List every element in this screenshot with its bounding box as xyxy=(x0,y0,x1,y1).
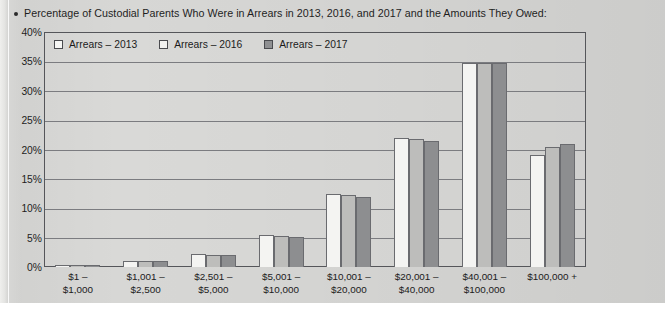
dark-gray-square-swatch xyxy=(264,40,273,49)
y-axis-tick-label: 10% xyxy=(2,203,42,214)
bar-group xyxy=(315,32,383,267)
x-axis-labels: $1 –$1,000$1,001 –$2,500$2,501 –$5,000$5… xyxy=(44,271,586,305)
bar xyxy=(492,63,507,267)
y-axis-labels: 40%35%30%25%20%15%10%5%0% xyxy=(0,32,42,267)
chart-title-row: Percentage of Custodial Parents Who Were… xyxy=(14,5,547,21)
bar xyxy=(560,144,575,267)
bar xyxy=(545,147,560,267)
bar-group xyxy=(383,32,451,267)
chart-legend: Arrears – 2013Arrears – 2016Arrears – 20… xyxy=(44,32,586,56)
x-axis-tick-label: $10,001 –$20,000 xyxy=(315,271,383,296)
x-axis-tick-label: $1,001 –$2,500 xyxy=(112,271,180,296)
x-axis-tick-label: $1 –$1,000 xyxy=(44,271,112,296)
bar xyxy=(191,254,206,267)
bar xyxy=(394,138,409,267)
bar xyxy=(289,237,304,267)
legend-item[interactable]: Arrears – 2013 xyxy=(54,39,137,50)
bar xyxy=(462,63,477,267)
bar xyxy=(341,195,356,267)
x-axis-tick-label: $2,501 –$5,000 xyxy=(180,271,248,296)
bar-group xyxy=(112,32,180,267)
y-axis-tick-label: 0% xyxy=(2,262,42,273)
bar-group xyxy=(451,32,519,267)
legend-item[interactable]: Arrears – 2017 xyxy=(264,39,347,50)
y-axis-tick-label: 30% xyxy=(2,85,42,96)
bar-group xyxy=(44,32,112,267)
bar xyxy=(123,261,138,267)
x-axis-tick-label: $5,001 –$10,000 xyxy=(247,271,315,296)
bar-chart: 40%35%30%25%20%15%10%5%0% Arrears – 2013… xyxy=(0,24,665,305)
legend-item-label: Arrears – 2013 xyxy=(69,39,137,50)
bar xyxy=(221,255,236,267)
bar xyxy=(356,197,371,268)
bullet-icon xyxy=(14,12,18,16)
bar xyxy=(153,261,168,267)
scanned-page: Percentage of Custodial Parents Who Were… xyxy=(0,0,665,318)
bar xyxy=(55,265,70,267)
x-axis-tick-label: $40,001 –$100,000 xyxy=(451,271,519,296)
bar xyxy=(477,63,492,267)
y-axis-tick-label: 5% xyxy=(2,232,42,243)
bar xyxy=(274,236,289,267)
bar xyxy=(70,265,85,267)
y-axis-tick-label: 25% xyxy=(2,115,42,126)
y-axis-tick-label: 15% xyxy=(2,173,42,184)
white-square-swatch xyxy=(54,40,63,49)
legend-item-label: Arrears – 2017 xyxy=(279,39,347,50)
bar xyxy=(206,255,221,267)
bars-layer xyxy=(44,32,586,267)
bar xyxy=(85,265,100,267)
y-axis-tick-label: 20% xyxy=(2,144,42,155)
x-axis-tick-label: $100,000 + xyxy=(518,271,586,284)
light-gray-square-swatch xyxy=(159,40,168,49)
bar-group xyxy=(518,32,586,267)
bar xyxy=(409,139,424,267)
bar xyxy=(424,141,439,267)
bar xyxy=(530,155,545,267)
legend-item-label: Arrears – 2016 xyxy=(174,39,242,50)
y-axis-tick-label: 40% xyxy=(2,27,42,38)
legend-item[interactable]: Arrears – 2016 xyxy=(159,39,242,50)
bar-group xyxy=(247,32,315,267)
bar xyxy=(138,261,153,267)
page-bottom-edge xyxy=(0,303,665,318)
bar xyxy=(326,194,341,267)
y-axis-tick-label: 35% xyxy=(2,56,42,67)
x-axis-tick-label: $20,001 –$40,000 xyxy=(383,271,451,296)
bar-group xyxy=(180,32,248,267)
page-title: Percentage of Custodial Parents Who Were… xyxy=(24,5,547,21)
bar xyxy=(259,235,274,267)
